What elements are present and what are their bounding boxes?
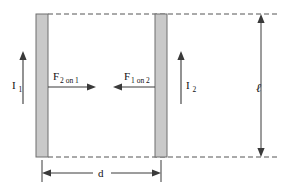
conductor-bar-left xyxy=(36,14,48,157)
current-1-subscript: 1 xyxy=(19,85,23,94)
conductor-bar-right xyxy=(155,14,167,157)
force-2-on-1-subscript: 2 on 1 xyxy=(60,76,79,85)
physics-diagram-figure: I 1 I 2 F 2 on 1 F 1 on 2 d ℓ xyxy=(0,0,283,195)
current-1-arrow xyxy=(19,51,26,104)
force-1-on-2-label: F xyxy=(124,70,130,82)
current-2-arrow xyxy=(177,51,184,104)
length-label: ℓ xyxy=(256,81,261,95)
separation-label: d xyxy=(98,167,104,179)
current-2-subscript: 2 xyxy=(193,85,197,94)
current-2-label: I xyxy=(186,79,190,91)
diagram-canvas: I 1 I 2 F 2 on 1 F 1 on 2 d ℓ xyxy=(0,0,283,195)
current-1-label: I xyxy=(12,79,16,91)
force-2-on-1-label: F xyxy=(53,70,59,82)
force-1-on-2-subscript: 1 on 2 xyxy=(131,76,150,85)
